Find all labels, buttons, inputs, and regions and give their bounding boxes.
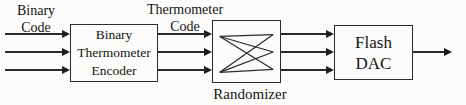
encoder-label-line3: Encoder [71, 62, 157, 80]
encoder-label-line2: Thermometer [71, 44, 157, 62]
randomized-arrow-line-1 [281, 33, 327, 35]
input-arrow-line-1 [5, 33, 63, 35]
thermometer-arrow-line-1 [158, 33, 205, 35]
flash-dac-block: Flash DAC [334, 25, 413, 80]
block-diagram: Binary Code Binary Thermometer Encoder T… [0, 0, 466, 105]
randomized-arrow-line-3 [281, 69, 327, 71]
thermometer-arrow-head-2-icon [204, 48, 212, 56]
flash-dac-label-line1: Flash [335, 32, 412, 53]
randomizer-block [212, 20, 281, 83]
crossbar-lines-icon [213, 21, 280, 82]
thermometer-arrow-line-3 [158, 69, 205, 71]
randomizer-label: Randomizer [203, 86, 297, 103]
randomized-arrow-head-1-icon [326, 30, 334, 38]
input-arrow-line-2 [5, 51, 63, 53]
input-arrow-line-3 [5, 69, 63, 71]
output-arrow-head-icon [444, 48, 452, 56]
input-arrow-head-3-icon [62, 66, 70, 74]
randomized-arrow-head-3-icon [326, 66, 334, 74]
thermometer-code-label-line1: Thermometer [142, 1, 228, 18]
randomized-arrow-line-2 [281, 51, 327, 53]
flash-dac-label-line2: DAC [335, 53, 412, 74]
thermometer-arrow-head-1-icon [204, 30, 212, 38]
input-arrow-head-1-icon [62, 30, 70, 38]
output-arrow-line [413, 51, 445, 53]
binary-code-label-line1: Binary [6, 2, 66, 19]
randomized-arrow-head-2-icon [326, 48, 334, 56]
input-arrow-head-2-icon [62, 48, 70, 56]
thermometer-arrow-line-2 [158, 51, 205, 53]
binary-code-label: Binary Code [6, 2, 66, 36]
thermometer-arrow-head-3-icon [204, 66, 212, 74]
